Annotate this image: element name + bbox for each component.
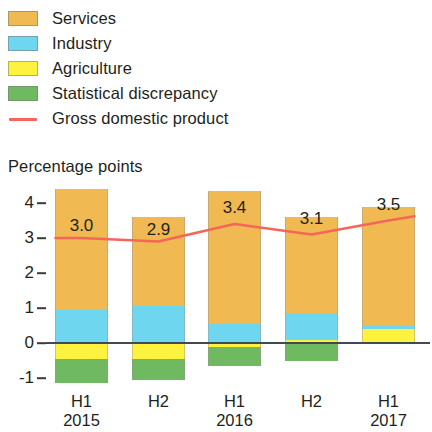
legend-item-gross-domestic-product: Gross domestic product <box>8 106 428 131</box>
legend-swatch-industry <box>8 36 38 51</box>
legend-label-statistical-discrepancy: Statistical discrepancy <box>52 84 218 103</box>
gdp-polyline <box>56 216 415 241</box>
x-period-label: H1 <box>63 392 100 411</box>
gdp-value-label: 3.4 <box>223 198 247 218</box>
legend-item-services: Services <box>8 6 428 31</box>
x-tick-label-2: H2 <box>148 392 169 411</box>
chart-figure: Services Industry Agriculture Statistica… <box>0 0 432 432</box>
legend-swatch-agriculture <box>8 61 38 76</box>
y-axis-title: Percentage points <box>8 157 143 176</box>
x-tick-label-4: H2 <box>301 392 322 411</box>
legend-swatch-services <box>8 11 38 26</box>
x-year-label: 2016 <box>216 411 253 430</box>
gdp-value-label: 2.9 <box>147 220 171 240</box>
x-year-label: 2015 <box>63 411 100 430</box>
gdp-value-label: 3.1 <box>300 209 324 229</box>
legend-item-industry: Industry <box>8 31 428 56</box>
legend-item-statistical-discrepancy: Statistical discrepancy <box>8 81 428 106</box>
x-tick-label-1: H12015 <box>63 392 100 430</box>
x-axis: H12015H2H12016H2H12017 <box>0 392 432 432</box>
legend-swatch-statistical-discrepancy <box>8 86 38 101</box>
legend-label-services: Services <box>52 9 116 28</box>
legend: Services Industry Agriculture Statistica… <box>8 6 428 131</box>
gross-domestic-product-line <box>0 185 432 395</box>
x-period-label: H2 <box>148 392 169 411</box>
x-period-label: H1 <box>370 392 407 411</box>
plot-area: 43210-1 3.02.93.43.13.5 <box>0 185 432 395</box>
x-year-label: 2017 <box>370 411 407 430</box>
x-tick-label-5: H12017 <box>370 392 407 430</box>
legend-label-agriculture: Agriculture <box>52 59 132 78</box>
gdp-value-label: 3.0 <box>70 216 94 236</box>
legend-item-agriculture: Agriculture <box>8 56 428 81</box>
x-period-label: H2 <box>301 392 322 411</box>
x-period-label: H1 <box>216 392 253 411</box>
legend-label-industry: Industry <box>52 34 112 53</box>
gdp-value-label: 3.5 <box>377 195 401 215</box>
x-tick-label-3: H12016 <box>216 392 253 430</box>
legend-label-gross-domestic-product: Gross domestic product <box>52 109 228 128</box>
legend-swatch-gross-domestic-product <box>8 111 38 126</box>
